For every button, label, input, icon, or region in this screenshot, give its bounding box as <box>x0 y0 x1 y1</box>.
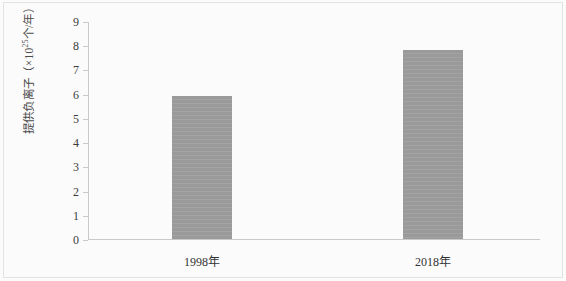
y-tick-mark <box>83 143 88 144</box>
y-tick-label: 9 <box>73 15 79 30</box>
y-tick-mark <box>83 216 88 217</box>
y-axis-title-suffix: 个/年） <box>23 2 35 39</box>
y-tick-label: 7 <box>73 63 79 78</box>
y-tick-label: 0 <box>73 233 79 248</box>
y-tick-label: 4 <box>73 136 79 151</box>
y-tick-label: 1 <box>73 208 79 223</box>
y-axis-title: 提供负离子（×1025个/年） <box>20 0 36 168</box>
x-axis-line <box>88 239 540 240</box>
y-tick-mark <box>83 240 88 241</box>
y-tick-mark <box>83 95 88 96</box>
bar <box>172 96 232 239</box>
y-tick-label: 8 <box>73 39 79 54</box>
y-axis-line <box>88 22 89 240</box>
y-tick-label: 2 <box>73 184 79 199</box>
x-axis-category-label: 1998年 <box>142 252 262 270</box>
plot-area: 9876543210 <box>88 22 540 240</box>
y-tick-mark <box>83 70 88 71</box>
y-tick-mark <box>83 167 88 168</box>
y-axis-title-prefix: 提供负离子（×10 <box>23 47 35 134</box>
y-tick-mark <box>83 22 88 23</box>
bar <box>403 50 463 239</box>
y-tick-mark <box>83 119 88 120</box>
x-axis-category-label: 2018年 <box>373 252 493 270</box>
y-tick-label: 3 <box>73 160 79 175</box>
bar-chart-figure: 提供负离子（×1025个/年） 9876543210 1998年2018年 <box>0 0 566 281</box>
y-axis-title-exponent: 25 <box>21 39 30 47</box>
y-tick-mark <box>83 192 88 193</box>
y-tick-label: 5 <box>73 111 79 126</box>
y-tick-mark <box>83 46 88 47</box>
y-tick-label: 6 <box>73 87 79 102</box>
